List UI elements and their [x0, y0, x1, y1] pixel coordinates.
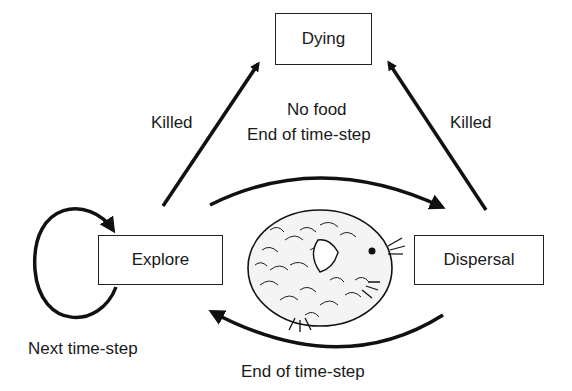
node-dispersal-label: Dispersal: [444, 250, 515, 270]
edge-label-no-food: No food: [287, 99, 347, 121]
arrow-explore-to-dispersal: [210, 178, 442, 207]
arrow-explore-to-dying: [163, 64, 258, 206]
edge-label-dispersal-killed: Killed: [450, 112, 492, 134]
edge-label-next-timestep: Next time-step: [28, 338, 138, 360]
edge-label-end-of-timestep-bottom: End of time-step: [241, 361, 365, 383]
node-explore: Explore: [98, 235, 223, 285]
node-dying-label: Dying: [302, 29, 345, 49]
edge-label-explore-killed: Killed: [151, 112, 193, 134]
node-dying: Dying: [275, 13, 372, 65]
node-explore-label: Explore: [132, 250, 190, 270]
edge-label-end-of-timestep-top: End of time-step: [247, 124, 371, 146]
node-dispersal: Dispersal: [414, 235, 544, 285]
lemming-illustration: [248, 210, 405, 332]
arrow-dispersal-to-dying: [389, 63, 486, 210]
